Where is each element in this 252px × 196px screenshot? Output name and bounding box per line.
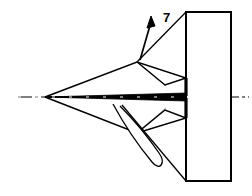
callout-label-7: 7 <box>163 10 170 25</box>
callout-arrow-head-icon <box>147 16 155 28</box>
upper-delta-wing <box>45 62 186 97</box>
callout-leader-line <box>137 12 186 62</box>
technical-drawing-canvas: 7 <box>0 0 252 196</box>
figure-container: 7 <box>0 0 252 196</box>
lower-delta-wing <box>45 97 186 133</box>
